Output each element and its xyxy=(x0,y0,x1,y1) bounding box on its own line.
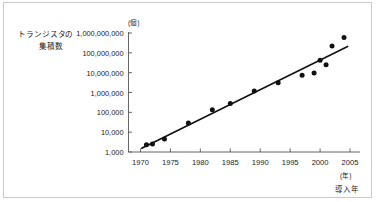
axis-tick-marks xyxy=(129,33,351,152)
data-point xyxy=(150,142,155,147)
data-point xyxy=(276,80,281,85)
data-point xyxy=(312,71,317,76)
data-point xyxy=(318,58,323,63)
data-point xyxy=(300,73,305,78)
data-point xyxy=(252,88,257,93)
data-point xyxy=(144,142,149,147)
transistor-count-chart: トランジスタの 集積数 (個) (年) 導入年 1,00010,000100,0… xyxy=(0,0,377,202)
data-points xyxy=(144,35,347,147)
axis-lines xyxy=(129,32,361,152)
data-point xyxy=(186,120,191,125)
trend-line xyxy=(142,46,348,148)
data-point xyxy=(330,44,335,49)
data-point xyxy=(342,35,347,40)
data-point xyxy=(324,62,329,67)
data-point xyxy=(162,137,167,142)
data-point xyxy=(228,101,233,106)
data-point xyxy=(210,107,215,112)
chart-canvas xyxy=(0,0,377,202)
